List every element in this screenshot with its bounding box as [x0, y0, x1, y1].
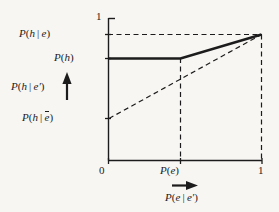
y-tick-label-p-h-e: P(h | e)	[19, 28, 50, 39]
x-tick-label-one: 1	[258, 165, 264, 176]
figure-canvas: 1 P(h | e) P(h) P(h | e) 0 P(e) 1 P(h | …	[0, 0, 279, 212]
up-arrow-icon	[62, 72, 71, 100]
y-tick-label-p-h-ebar: P(h | e)	[22, 112, 53, 123]
y-tick-label-one: 1	[96, 11, 102, 22]
x-axis-title: P(e | e′)	[165, 192, 198, 203]
y-tick-label-p-h: P(h)	[54, 52, 74, 63]
x-tick-label-p-e: P(e)	[160, 165, 179, 176]
y-axis-title: P(h | e′)	[11, 81, 44, 92]
jeffrey-diagonal-line	[109, 35, 262, 119]
x-tick-label-zero: 0	[99, 165, 105, 176]
right-arrow-icon	[172, 181, 198, 190]
